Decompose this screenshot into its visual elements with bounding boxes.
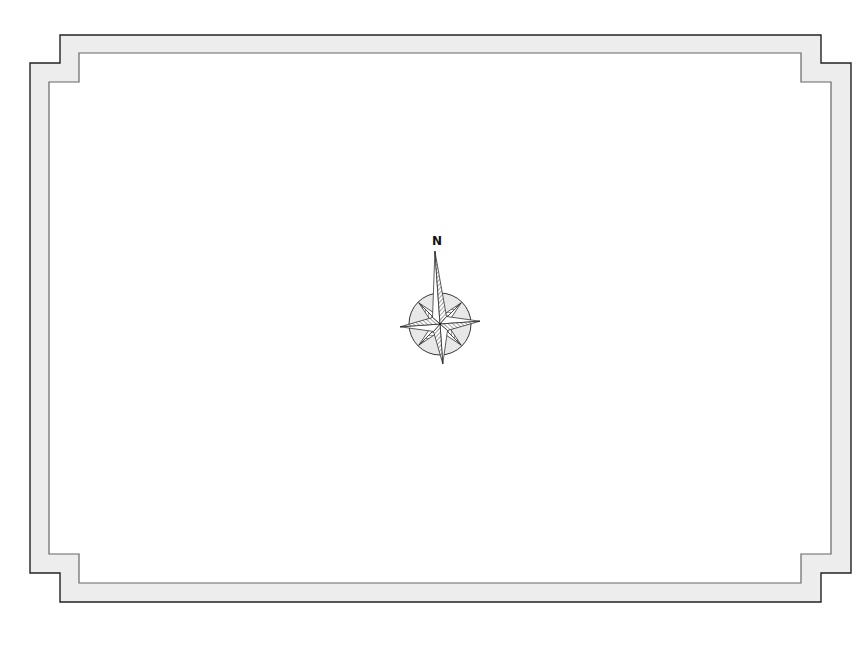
map-canvas: N: [0, 0, 859, 650]
compass-center-dot: [439, 323, 441, 325]
compass-north-label: N: [432, 234, 442, 248]
